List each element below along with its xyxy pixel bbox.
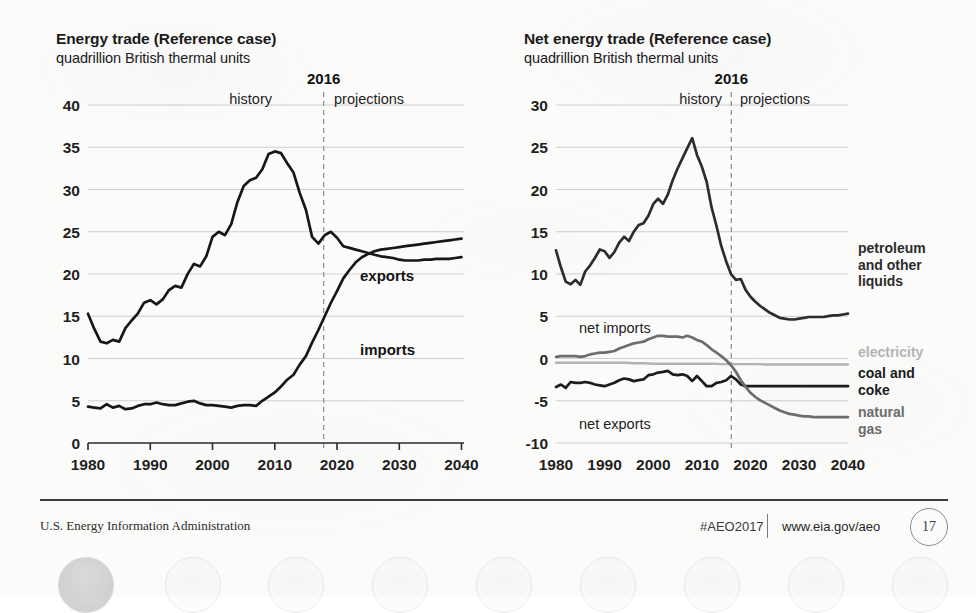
svg-text:20: 20 [531,182,548,199]
chart-subtitle-energy-trade: quadrillion British thermal units [56,50,250,66]
chart-title-energy-trade: Energy trade (Reference case) [56,30,276,48]
x-axis-ticklabels: 1980 1990 2000 2010 2020 2030 2040 [71,456,479,473]
series-coal-coke-line [556,371,848,388]
svg-text:15: 15 [531,224,549,241]
footer-divider-rule [40,499,948,501]
svg-text:1980: 1980 [539,456,573,473]
history-label: history [229,91,272,107]
svg-text:2020: 2020 [320,456,354,473]
series-natural-gas-line [556,336,848,417]
svg-text:1990: 1990 [133,456,167,473]
y-axis-ticks: 40 35 30 25 20 15 10 5 0 [63,97,81,452]
svg-text:-5: -5 [534,393,548,410]
svg-text:2040: 2040 [831,456,865,473]
svg-text:40: 40 [63,97,80,114]
svg-text:20: 20 [63,266,80,283]
gridlines [556,105,848,443]
svg-text:2040: 2040 [444,456,478,473]
svg-text:35: 35 [63,139,81,156]
svg-text:10: 10 [531,266,548,283]
footer-url: www.eia.gov/aeo [782,519,880,534]
svg-text:1980: 1980 [71,456,105,473]
svg-text:2030: 2030 [382,456,416,473]
energy-trade-plot-area: 40 35 30 25 20 15 10 5 0 2016 history pr… [44,80,494,480]
svg-text:15: 15 [63,308,81,325]
svg-text:2020: 2020 [733,456,767,473]
legend-electricity: electricity [858,344,923,361]
svg-text:1990: 1990 [587,456,621,473]
svg-text:25: 25 [63,224,81,241]
footer-separator [767,514,768,538]
net-exports-label: net exports [579,416,651,432]
exports-series-label: exports [360,267,414,284]
ghost-icon-9 [892,557,948,613]
ghost-icon-4 [372,557,428,613]
svg-text:2010: 2010 [258,456,292,473]
svg-text:30: 30 [531,97,548,114]
series-exports-line [88,239,462,410]
footer: U.S. Energy Information Administration #… [40,512,948,546]
imports-series-label: imports [360,341,415,358]
svg-text:30: 30 [63,182,80,199]
ghost-icon-6 [580,557,636,613]
legend-natural-gas: natural gas [858,404,905,437]
ghost-icon-3 [268,557,324,613]
svg-text:2000: 2000 [636,456,670,473]
series-electricity-line [556,363,848,365]
history-label: history [679,91,722,107]
svg-text:2010: 2010 [685,456,719,473]
chart-title-net-energy-trade: Net energy trade (Reference case) [524,30,771,48]
svg-text:-10: -10 [526,435,548,452]
y-axis-ticks: 30 25 20 15 10 5 0 -5 -10 [526,97,549,452]
svg-text:2000: 2000 [195,456,229,473]
ghost-icon-8 [788,557,844,613]
footer-agency-name: U.S. Energy Information Administration [40,518,250,534]
projections-label: projections [334,91,404,107]
legend-coal-and-coke: coal and coke [858,365,915,398]
svg-text:10: 10 [63,351,80,368]
ghost-icon-7 [684,557,740,613]
svg-text:5: 5 [71,393,80,410]
ghost-icon-1 [58,557,114,613]
svg-text:25: 25 [531,139,549,156]
net-imports-label: net imports [579,320,651,336]
ghost-icon-2 [165,557,221,613]
series-petroleum-line [556,138,848,319]
page-number-badge: 17 [910,508,948,546]
svg-text:0: 0 [539,351,548,368]
footer-hashtag: #AEO2017 [700,519,764,534]
x-axis-tickmarks [88,443,462,450]
svg-text:2030: 2030 [782,456,816,473]
svg-text:5: 5 [539,308,548,325]
legend-petroleum: petroleum and other liquids [858,240,926,290]
x-axis-ticklabels: 1980 1990 2000 2010 2020 2030 2040 [539,456,865,473]
ghost-icon-5 [476,557,532,613]
svg-text:0: 0 [71,435,80,452]
divider-year-label: 2016 [307,70,340,87]
projections-label: projections [740,91,810,107]
ghost-dock-icons [0,545,976,597]
energy-trade-svg: 40 35 30 25 20 15 10 5 0 2016 history pr… [44,80,494,480]
divider-year-label: 2016 [715,70,748,87]
chart-subtitle-net-energy-trade: quadrillion British thermal units [524,50,718,66]
